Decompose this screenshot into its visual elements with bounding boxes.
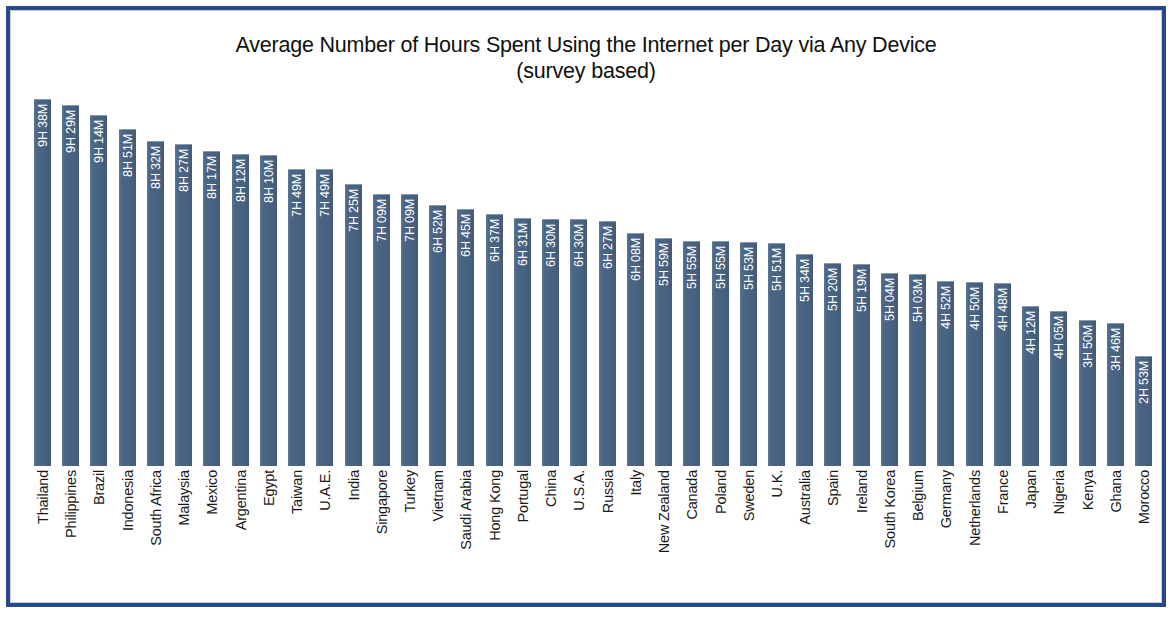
bar-column: 5H 19M (853, 264, 870, 466)
category-label-column: Belgium (909, 468, 926, 598)
chart-frame-border: Average Number of Hours Spent Using the … (6, 6, 1166, 607)
bar-value-label: 8H 51M (121, 134, 135, 177)
category-label: New Zealand (656, 470, 672, 553)
bar: 5H 55M (712, 241, 729, 466)
category-label-column: Spain (824, 468, 841, 598)
bar: 3H 46M (1107, 323, 1124, 466)
category-label: China (543, 470, 559, 507)
bar-column: 4H 50M (966, 282, 983, 466)
category-label-column: Singapore (373, 468, 390, 598)
bar-column: 6H 45M (457, 209, 474, 466)
bar: 8H 10M (260, 155, 277, 466)
category-label: Ghana (1108, 470, 1124, 513)
bar: 6H 52M (429, 205, 446, 466)
bar: 4H 48M (994, 283, 1011, 466)
category-label-column: Ireland (853, 468, 870, 598)
bar-column: 8H 10M (260, 155, 277, 466)
bar-value-label: 9H 14M (92, 120, 106, 163)
bar-column: 6H 30M (542, 219, 559, 466)
bar-value-label: 5H 03M (911, 279, 925, 322)
bar-column: 8H 51M (119, 129, 136, 466)
category-label-column: Portugal (514, 468, 531, 598)
bar-value-label: 5H 55M (714, 246, 728, 289)
category-label-column: U.S.A. (570, 468, 587, 598)
bar: 8H 17M (203, 151, 220, 466)
bar: 8H 27M (175, 144, 192, 466)
category-label-column: Brazil (90, 468, 107, 598)
category-label-column: Japan (1022, 468, 1039, 598)
bar-value-label: 2H 53M (1137, 361, 1151, 404)
bar: 4H 05M (1050, 311, 1067, 466)
category-label: Germany (938, 470, 954, 528)
category-label: Kenya (1080, 470, 1096, 510)
bar: 6H 08M (627, 233, 644, 466)
category-label-column: Philippines (62, 468, 79, 598)
bar: 6H 27M (599, 221, 616, 466)
category-label: Spain (825, 470, 841, 506)
bar-column: 6H 37M (486, 214, 503, 466)
bar-value-label: 8H 10M (262, 160, 276, 203)
bar: 6H 30M (570, 219, 587, 466)
bar: 5H 55M (683, 241, 700, 466)
category-label: Argentina (233, 470, 249, 530)
bar-value-label: 8H 12M (234, 159, 248, 202)
bar-value-label: 7H 09M (375, 199, 389, 242)
bar: 9H 14M (90, 115, 107, 466)
category-label: Hong Kong (487, 470, 503, 541)
category-label: South Korea (882, 470, 898, 548)
category-label-column: Morocco (1135, 468, 1152, 598)
category-label-column: Thailand (34, 468, 51, 598)
bar: 2H 53M (1135, 356, 1152, 466)
category-label-column: Mexico (203, 468, 220, 598)
bar-column: 7H 09M (401, 194, 418, 466)
category-label: Russia (600, 470, 616, 513)
bar-column: 5H 55M (712, 241, 729, 466)
bar: 9H 29M (62, 105, 79, 466)
category-label: Canada (684, 470, 700, 520)
bar-value-label: 6H 45M (459, 214, 473, 257)
bar-value-label: 5H 34M (798, 259, 812, 302)
category-label-column: Vietnam (429, 468, 446, 598)
category-label-column: Netherlands (966, 468, 983, 598)
bar-column: 4H 48M (994, 283, 1011, 466)
bar-column: 4H 52M (937, 281, 954, 466)
category-label: Brazil (91, 470, 107, 505)
bar: 5H 04M (881, 273, 898, 466)
bar: 9H 38M (34, 99, 51, 466)
bar-value-label: 5H 55M (685, 246, 699, 289)
category-label: Indonesia (120, 470, 136, 531)
bar: 7H 09M (401, 194, 418, 466)
bar: 4H 52M (937, 281, 954, 466)
category-label-column: Canada (683, 468, 700, 598)
bar-value-label: 8H 17M (205, 156, 219, 199)
category-label-column: Nigeria (1050, 468, 1067, 598)
bar: 4H 50M (966, 282, 983, 466)
bar-column: 6H 27M (599, 221, 616, 466)
category-label: U.K. (769, 470, 785, 497)
category-label-column: India (345, 468, 362, 598)
bar-column: 5H 53M (740, 242, 757, 466)
bar: 5H 20M (824, 263, 841, 466)
category-label-column: Kenya (1079, 468, 1096, 598)
bar-column: 6H 30M (570, 219, 587, 466)
bar: 6H 30M (542, 219, 559, 466)
bar-column: 4H 12M (1022, 306, 1039, 466)
bar: 5H 19M (853, 264, 870, 466)
category-label-column: Germany (937, 468, 954, 598)
category-label-column: Egypt (260, 468, 277, 598)
bar-column: 7H 49M (316, 169, 333, 466)
bar-column: 7H 09M (373, 194, 390, 466)
category-label-column: U.A.E. (316, 468, 333, 598)
bar-value-label: 6H 08M (629, 238, 643, 281)
category-label-column: Italy (627, 468, 644, 598)
category-label: Vietnam (430, 470, 446, 522)
bar-column: 8H 32M (147, 141, 164, 466)
bar-value-label: 3H 50M (1081, 325, 1095, 368)
bar-column: 8H 12M (232, 154, 249, 466)
bar-column: 2H 53M (1135, 356, 1152, 466)
bar-value-label: 5H 04M (883, 278, 897, 321)
bar-column: 7H 49M (288, 169, 305, 466)
category-label: Singapore (374, 470, 390, 534)
bar-column: 5H 55M (683, 241, 700, 466)
category-label-column: South Africa (147, 468, 164, 598)
